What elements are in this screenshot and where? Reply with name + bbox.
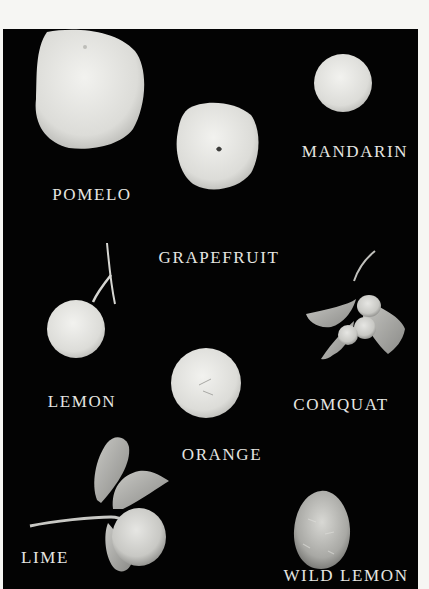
label-comquat: COMQUAT [293,396,388,413]
citrus-plate: POMELO MANDARIN GRAPEFRUIT LEMON COMQUAT… [3,29,418,589]
comquat-photo [306,251,405,359]
label-mandarin: MANDARIN [302,143,408,160]
label-lime: LIME [21,549,69,566]
fruit-photographs [3,29,418,589]
label-lemon: LEMON [48,393,116,410]
lemon-photo [47,243,115,358]
grapefruit-photo [177,103,259,190]
label-pomelo: POMELO [52,186,132,203]
mandarin-photo [314,54,372,112]
pomelo-photo [36,30,145,149]
label-orange: ORANGE [182,446,262,463]
label-wild-lemon: WILD LEMON [283,567,408,584]
wild-lemon-photo [294,491,350,569]
orange-photo [171,348,241,418]
label-grapefruit: GRAPEFRUIT [159,249,280,266]
